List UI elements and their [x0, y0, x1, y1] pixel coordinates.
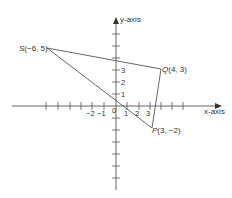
point-s-label: S(−6, 5)	[19, 44, 48, 53]
x-tick-label: 2	[135, 109, 139, 118]
x-tick-label: 0	[112, 106, 116, 115]
y-axis-arrow-icon	[113, 17, 119, 24]
y-tick-label: 2	[121, 78, 125, 87]
y-tick-label: 1	[121, 90, 125, 99]
y-tick-label: 3	[121, 66, 125, 75]
x-axis-label: x-axis	[204, 107, 225, 116]
x-tick-label: 1	[124, 109, 128, 118]
x-tick-label: −2	[86, 109, 95, 118]
point-p-label: P(3, −2)	[152, 126, 181, 135]
x-tick-label: −1	[97, 109, 106, 118]
y-axis-label: y-axis	[120, 15, 141, 24]
coordinate-diagram: y-axis x-axis −2 −1 0 1 2 3 1 2 3 S(−6, …	[0, 0, 232, 198]
point-q-label: Q(4, 3)	[162, 65, 187, 74]
x-tick-label: 3	[146, 109, 150, 118]
